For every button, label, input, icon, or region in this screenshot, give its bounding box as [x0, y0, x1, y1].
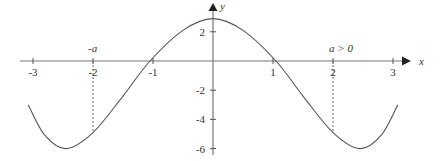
x-axis-arrow-icon — [402, 57, 411, 66]
y-tick-label: -4 — [196, 113, 206, 125]
annotation-pos-a: a > 0 — [329, 42, 353, 54]
annotation-neg-a: -a — [88, 42, 98, 54]
chart: x y -3-2-1123 2-2-4-6 -a a > 0 — [0, 0, 441, 161]
x-tick-label: 1 — [270, 66, 276, 78]
x-tick-label: -1 — [148, 66, 157, 78]
x-axis-label: x — [418, 55, 424, 67]
y-tick-label: -2 — [196, 84, 205, 96]
x-tick-label: 2 — [330, 66, 336, 78]
y-axis-label: y — [219, 0, 225, 12]
y-tick-label: 2 — [200, 26, 206, 38]
axes: x y — [20, 0, 424, 155]
y-tick-label: -6 — [196, 143, 206, 155]
y-axis-arrow-icon — [209, 3, 218, 11]
x-tick-label: -3 — [28, 66, 38, 78]
x-tick-label: 3 — [390, 66, 396, 78]
x-tick-label: -2 — [88, 66, 97, 78]
